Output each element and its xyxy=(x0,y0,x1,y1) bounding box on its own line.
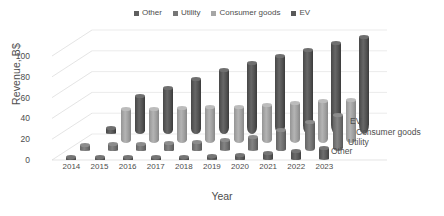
bar-ev-2016 xyxy=(163,86,173,134)
x-axis-tick-label: 2014 xyxy=(63,162,81,171)
legend-item-label: Other xyxy=(142,9,162,17)
bar-ev-2018 xyxy=(219,68,229,134)
bar-body xyxy=(290,103,300,143)
bar-cap xyxy=(346,98,356,102)
bar-consumer-goods-2020 xyxy=(262,103,272,143)
bar-other-2017 xyxy=(151,155,161,160)
bar-body xyxy=(318,101,328,143)
bar-body xyxy=(319,148,329,160)
bar-body xyxy=(219,70,229,134)
bar-body xyxy=(276,130,286,151)
bar-other-2022 xyxy=(291,149,301,160)
bar-body xyxy=(177,108,187,142)
chart-legend: OtherUtilityConsumer goodsEV xyxy=(0,9,444,17)
bar-utility-2022 xyxy=(305,120,315,151)
bar-consumer-goods-2022 xyxy=(318,99,328,143)
bar-cap xyxy=(235,153,245,157)
bar-consumer-goods-2015 xyxy=(121,107,131,142)
bar-other-2019 xyxy=(207,154,217,160)
y-axis-tick-label: 20 xyxy=(21,134,30,144)
bar-body xyxy=(205,107,215,142)
bar-cap xyxy=(80,143,90,147)
bar-body xyxy=(191,79,201,134)
bar-cap xyxy=(191,77,201,81)
bar-other-2021 xyxy=(263,151,273,160)
legend-swatch-icon xyxy=(211,11,216,16)
bar-cap xyxy=(66,155,76,159)
bar-cap xyxy=(136,142,146,146)
bar-utility-2014 xyxy=(80,143,90,151)
legend-item[interactable]: Utility xyxy=(173,9,201,17)
bar-cap xyxy=(106,126,116,130)
x-axis-tick-label: 2015 xyxy=(91,162,109,171)
x-axis-tick-label: 2017 xyxy=(147,162,165,171)
bar-cap xyxy=(263,151,273,155)
bar-body xyxy=(234,107,244,142)
bar-other-2020 xyxy=(235,153,245,160)
bar-other-2016 xyxy=(123,155,133,160)
depth-axis-label-utility: Utility xyxy=(348,137,369,147)
bar-ev-2014 xyxy=(106,126,116,134)
bar-cap xyxy=(291,149,301,153)
bar-cap xyxy=(318,99,328,103)
plot-area: 0204060801002014201520162017201820192020… xyxy=(52,34,387,160)
bar-cap xyxy=(108,142,118,146)
bar-other-2015 xyxy=(95,155,105,160)
x-axis-tick-label: 2018 xyxy=(175,162,193,171)
revenue-3d-bar-chart: OtherUtilityConsumer goodsEV Revenue, B$… xyxy=(0,0,444,216)
bar-utility-2016 xyxy=(136,142,146,151)
bar-cap xyxy=(303,48,313,52)
bar-cap xyxy=(220,138,230,142)
bar-cap xyxy=(151,155,161,159)
bar-body xyxy=(275,56,285,134)
legend-swatch-icon xyxy=(291,11,296,16)
bar-utility-2017 xyxy=(164,141,174,151)
bar-cap xyxy=(179,155,189,159)
bar-cap xyxy=(192,140,202,144)
bar-cap xyxy=(262,103,272,107)
legend-item[interactable]: Other xyxy=(134,9,162,17)
bar-body xyxy=(247,63,257,134)
depth-axis-label-consumer-goods: Consumer goods xyxy=(356,127,421,137)
bar-ev-2019 xyxy=(247,61,257,134)
bar-utility-2015 xyxy=(108,142,118,151)
bar-utility-2021 xyxy=(276,128,286,151)
bar-body xyxy=(305,122,315,151)
depth-axis-label-ev: EV xyxy=(350,116,361,126)
bar-series-container xyxy=(52,34,387,160)
bar-cap xyxy=(164,141,174,145)
bar-body xyxy=(121,109,131,142)
legend-item-label: Consumer goods xyxy=(219,9,280,17)
bar-utility-2020 xyxy=(248,135,258,152)
x-axis-title: Year xyxy=(0,190,444,202)
bar-cap xyxy=(333,113,343,117)
legend-item[interactable]: Consumer goods xyxy=(211,9,280,17)
bar-consumer-goods-2021 xyxy=(290,101,300,143)
bar-cap xyxy=(248,135,258,139)
x-axis-tick-label: 2023 xyxy=(315,162,333,171)
depth-axis-label-other: Other xyxy=(331,146,352,156)
x-axis-tick-label: 2021 xyxy=(259,162,277,171)
legend-swatch-icon xyxy=(173,11,178,16)
bar-ev-2017 xyxy=(191,77,201,134)
bar-ev-2015 xyxy=(135,94,145,134)
bar-utility-2018 xyxy=(192,140,202,151)
x-axis-tick-label: 2016 xyxy=(119,162,137,171)
legend-item[interactable]: EV xyxy=(291,9,310,17)
bar-cap xyxy=(290,101,300,105)
bar-other-2014 xyxy=(66,155,76,160)
legend-item-label: EV xyxy=(299,9,310,17)
bar-cap xyxy=(275,54,285,58)
y-axis-tick-label: 0 xyxy=(25,155,30,165)
bar-body xyxy=(262,105,272,143)
bar-cap xyxy=(207,154,217,158)
x-axis-tick-label: 2020 xyxy=(231,162,249,171)
legend-swatch-icon xyxy=(134,11,139,16)
bar-cap xyxy=(95,155,105,159)
y-axis-tick-label: 40 xyxy=(21,113,30,123)
x-axis-tick-label: 2022 xyxy=(287,162,305,171)
bar-other-2018 xyxy=(179,155,189,160)
bar-ev-2020 xyxy=(275,54,285,134)
bar-consumer-goods-2018 xyxy=(205,105,215,142)
bar-consumer-goods-2019 xyxy=(234,105,244,142)
